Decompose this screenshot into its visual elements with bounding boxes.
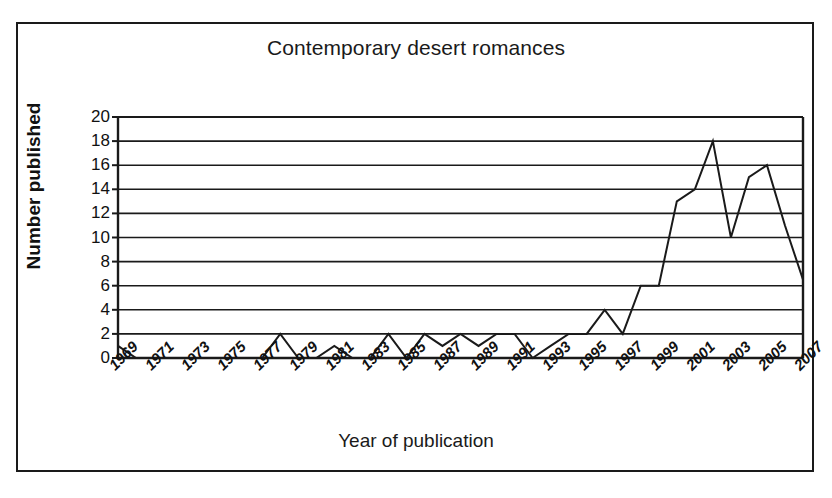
y-axis-title: Number published [23,86,45,286]
gridlines [118,117,803,334]
x-axis-title: Year of publication [0,430,832,452]
y-tick-label: 16 [80,156,110,173]
y-tick-label: 6 [80,277,110,294]
figure-container: Contemporary desert romances Number publ… [0,0,832,498]
data-series-line [118,141,803,358]
y-tick-label: 4 [80,301,110,318]
y-tick-label: 14 [80,180,110,197]
y-tick-label: 0 [80,349,110,366]
x-axis-tick-labels: 1969197119731975197719791981198319851987… [118,362,808,432]
chart-title: Contemporary desert romances [0,36,832,60]
y-tick-label: 2 [80,325,110,342]
plot-area [118,117,803,358]
y-tick-label: 10 [80,229,110,246]
y-tick-label: 8 [80,253,110,270]
line-chart-svg [118,117,803,358]
y-tick-label: 20 [80,108,110,125]
y-tick-label: 12 [80,204,110,221]
y-tick-label: 18 [80,132,110,149]
y-axis-tick-labels: 02468101214161820 [78,117,110,358]
